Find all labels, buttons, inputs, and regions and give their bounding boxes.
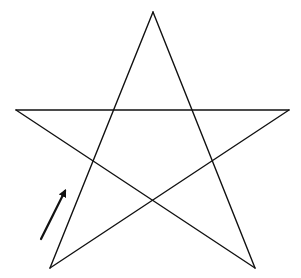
pentagram-diagram [0,0,301,278]
pentagram-stroke-2 [153,12,255,268]
pentagram-figure [0,0,301,278]
pentagram-stroke-1 [50,12,153,268]
pentagram-stroke-3 [16,110,255,268]
pentagram-stroke-5 [50,110,289,268]
pentagram-lines [16,12,289,268]
direction-arrow-icon [41,191,65,239]
